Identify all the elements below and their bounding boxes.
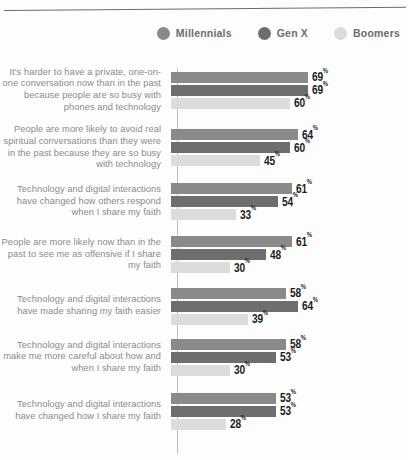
bar-set: 53%53%28% <box>170 383 408 439</box>
bar-boomers[interactable] <box>171 419 226 430</box>
category-label: Technology and digital interactions have… <box>0 184 170 219</box>
bar-gen-x[interactable] <box>171 249 266 260</box>
legend-label: Boomers <box>353 27 400 39</box>
bar-set: 61%48%30% <box>170 228 408 281</box>
chart-legend: MillennialsGen XBoomers <box>0 22 408 44</box>
bar-value-label: 39% <box>252 311 268 326</box>
circle-icon <box>334 27 347 40</box>
bar-row[interactable]: 60% <box>171 98 408 109</box>
bar-gen-x[interactable] <box>171 142 290 153</box>
bar-boomers[interactable] <box>171 209 236 220</box>
bar-millennials[interactable] <box>171 129 298 140</box>
bar-set: 61%54%33% <box>170 175 408 228</box>
bar-row[interactable]: 58% <box>171 339 408 350</box>
legend-label: Gen X <box>277 27 308 39</box>
bar-row[interactable]: 64% <box>171 301 408 312</box>
bar-row[interactable]: 39% <box>171 314 408 325</box>
bar-value-label: 69% <box>312 82 328 97</box>
circle-icon <box>258 27 271 40</box>
bar-value-label: 28% <box>230 416 246 431</box>
bar-row[interactable]: 64% <box>171 129 408 140</box>
bar-value-label: 61% <box>296 234 312 249</box>
bar-gen-x[interactable] <box>171 85 308 96</box>
bar-row[interactable]: 48% <box>171 249 408 260</box>
header-divider <box>0 6 408 18</box>
bar-row[interactable]: 53% <box>171 352 408 363</box>
bar-millennials[interactable] <box>171 236 292 247</box>
bar-gen-x[interactable] <box>171 196 278 207</box>
category-label: Technology and digital interactions have… <box>0 399 170 422</box>
category-label: People are more likely to avoid real spi… <box>0 124 170 170</box>
bar-value-label: 33% <box>240 207 256 222</box>
bar-gen-x[interactable] <box>171 352 276 363</box>
bar-value-label: 64% <box>302 298 318 313</box>
category-label: Technology and digital interactions have… <box>0 294 170 317</box>
bar-group-list: It's harder to have a private, one-on-on… <box>0 60 408 439</box>
bar-set: 58%53%30% <box>170 331 408 383</box>
bar-value-label: 61% <box>296 181 312 196</box>
bar-group: People are more likely now than in the p… <box>0 228 408 281</box>
bar-row[interactable]: 69% <box>171 85 408 96</box>
bar-row[interactable]: 61% <box>171 183 408 194</box>
bar-group: Technology and digital interactions have… <box>0 281 408 331</box>
bar-millennials[interactable] <box>171 288 286 299</box>
bar-row[interactable]: 53% <box>171 393 408 404</box>
bar-set: 64%60%45% <box>170 120 408 175</box>
bar-row[interactable]: 45% <box>171 155 408 166</box>
header-divider-line <box>4 7 406 11</box>
bar-row[interactable]: 60% <box>171 142 408 153</box>
chart-plot-area: It's harder to have a private, one-on-on… <box>0 60 408 458</box>
bar-group: Technology and digital interactions have… <box>0 175 408 228</box>
bar-group: It's harder to have a private, one-on-on… <box>0 60 408 120</box>
bar-row[interactable]: 58% <box>171 288 408 299</box>
bar-boomers[interactable] <box>171 98 290 109</box>
legend-label: Millennials <box>176 27 232 39</box>
bar-set: 69%69%60% <box>170 60 408 120</box>
bar-row[interactable]: 33% <box>171 209 408 220</box>
bar-boomers[interactable] <box>171 314 248 325</box>
legend-item-gen-x[interactable]: Gen X <box>258 27 308 40</box>
category-label: Technology and digital interactions make… <box>0 340 170 375</box>
bar-millennials[interactable] <box>171 393 276 404</box>
bar-group: Technology and digital interactions make… <box>0 331 408 383</box>
bar-row[interactable]: 69% <box>171 72 408 83</box>
bar-millennials[interactable] <box>171 72 308 83</box>
bar-row[interactable]: 30% <box>171 262 408 273</box>
bar-group: Technology and digital interactions have… <box>0 383 408 439</box>
legend-item-millennials[interactable]: Millennials <box>157 27 232 40</box>
category-label: People are more likely now than in the p… <box>0 237 170 272</box>
bar-boomers[interactable] <box>171 155 260 166</box>
bar-value-label: 48% <box>270 247 286 262</box>
bar-boomers[interactable] <box>171 365 230 376</box>
bar-value-label: 60% <box>294 95 310 110</box>
legend-item-boomers[interactable]: Boomers <box>334 27 400 40</box>
bar-millennials[interactable] <box>171 183 292 194</box>
bar-value-label: 54% <box>282 194 298 209</box>
circle-icon <box>157 27 170 40</box>
bar-boomers[interactable] <box>171 262 230 273</box>
bar-millennials[interactable] <box>171 339 286 350</box>
bar-value-label: 53% <box>280 349 296 364</box>
category-label: It's harder to have a private, one-on-on… <box>0 67 170 113</box>
bar-group: People are more likely to avoid real spi… <box>0 120 408 175</box>
bar-value-label: 30% <box>234 362 250 377</box>
bar-value-label: 45% <box>264 153 280 168</box>
bar-row[interactable]: 61% <box>171 236 408 247</box>
bar-row[interactable]: 53% <box>171 406 408 417</box>
bar-value-label: 60% <box>294 140 310 155</box>
bar-row[interactable]: 30% <box>171 365 408 376</box>
bar-row[interactable]: 54% <box>171 196 408 207</box>
bar-value-label: 30% <box>234 260 250 275</box>
bar-row[interactable]: 28% <box>171 419 408 430</box>
bar-set: 58%64%39% <box>170 281 408 331</box>
bar-gen-x[interactable] <box>171 406 276 417</box>
bar-value-label: 53% <box>280 403 296 418</box>
bar-gen-x[interactable] <box>171 301 298 312</box>
